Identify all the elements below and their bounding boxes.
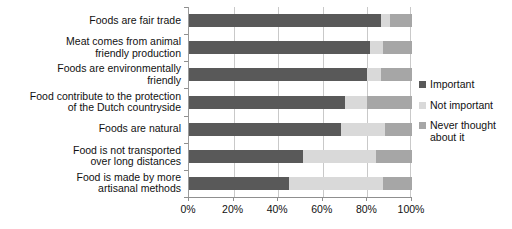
legend-item: Important [419,79,512,91]
bar-segment [345,96,367,109]
x-axis-tick-label: 40% [257,203,297,215]
bar-segment [390,14,412,27]
bar-row [189,123,410,136]
bar-segment [376,150,412,163]
bar-row [189,68,410,81]
x-axis-tick [188,197,189,201]
legend-label: Not important [430,99,493,111]
legend-item: Never thought about it [419,120,512,143]
bar-segment [381,14,390,27]
bar-segment [370,41,383,54]
category-axis-labels: Foods are fair tradeMeat comes from anim… [0,0,185,196]
category-label: Food contribute to the protectionof the … [0,91,181,114]
bar-segment [289,177,383,190]
bar-segment [367,68,380,81]
bar-row [189,96,410,109]
x-axis-tick-label: 60% [302,203,342,215]
category-label: Food is not transportedover long distanc… [0,145,181,168]
x-axis-tick-label: 100% [391,203,431,215]
legend-swatch-icon [419,102,426,109]
bar-row [189,150,410,163]
x-axis-tick [322,197,323,201]
bar-segment [189,96,345,109]
x-axis-tick-label: 0% [168,203,208,215]
x-axis-tick-label: 20% [213,203,253,215]
category-label-line: friendly [0,75,181,87]
category-label-line: of the Dutch countryside [0,102,181,114]
category-label: Food is made by moreartisanal methods [0,172,181,195]
category-label: Foods are natural [0,123,181,135]
legend-label: Important [430,78,474,90]
category-label: Foods are fair trade [0,15,181,27]
category-label-line: artisanal methods [0,183,181,195]
legend-item: Not important [419,100,512,112]
bar-segment [189,150,303,163]
bar-segment [385,123,412,136]
legend-swatch-icon [419,122,426,129]
category-label: Meat comes from animalfriendly productio… [0,36,181,59]
bar-segment [383,41,412,54]
bar-segment [381,68,412,81]
x-axis-tick [411,197,412,201]
category-label-line: Foods are natural [0,123,181,135]
category-label-line: Foods are fair trade [0,15,181,27]
bar-segment [383,177,412,190]
y-axis-tick [184,170,188,171]
x-axis-tick [233,197,234,201]
bar-segment [341,123,386,136]
y-axis-tick [184,197,188,198]
bar-segment [189,68,367,81]
bar-segment [189,177,289,190]
y-axis-tick [184,88,188,89]
x-axis-tick [366,197,367,201]
plot-area [188,7,411,197]
legend-label: Never thought about it [430,119,496,143]
category-label-line: friendly production [0,48,181,60]
x-axis-tick-label: 80% [346,203,386,215]
bar-segment [367,96,412,109]
bar-row [189,14,410,27]
x-axis-tick [277,197,278,201]
y-axis-tick [184,7,188,8]
stacked-bar-chart: Foods are fair tradeMeat comes from anim… [0,0,512,229]
bar-segment [189,14,381,27]
y-axis-tick [184,61,188,62]
x-axis-line [188,197,411,198]
category-label-line: Meat comes from animal [0,36,181,48]
y-axis-tick [184,116,188,117]
bar-segment [189,41,370,54]
chart-legend: ImportantNot importantNever thought abou… [419,79,512,152]
category-label: Foods are environmentallyfriendly [0,63,181,86]
y-axis-tick [184,143,188,144]
bar-row [189,177,410,190]
y-axis-tick [184,34,188,35]
category-label-line: over long distances [0,156,181,168]
legend-swatch-icon [419,81,426,88]
bar-segment [189,123,341,136]
bar-segment [303,150,377,163]
bar-row [189,41,410,54]
